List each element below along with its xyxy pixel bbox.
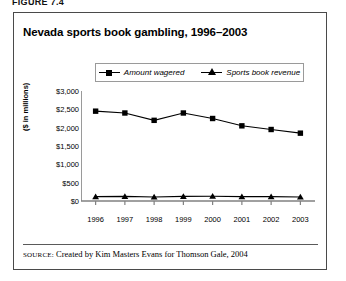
chart-title: Nevada sports book gambling, 1996–2003 (23, 26, 247, 38)
x-tick-label: 2002 (263, 215, 280, 224)
source-divider (23, 244, 318, 245)
y-tick-label: $2,000 (56, 123, 79, 132)
legend-item-amount-wagered: Amount wagered (99, 68, 184, 77)
y-tick-label: $500 (62, 178, 79, 187)
square-marker-icon (99, 72, 120, 73)
figure-number: FIGURE 7.4 (12, 0, 64, 7)
x-tick-label: 2001 (234, 215, 251, 224)
x-tick-label: 1998 (146, 215, 163, 224)
source-label: SOURCE: (23, 251, 54, 259)
legend-label-amount-wagered: Amount wagered (124, 68, 184, 77)
x-tick-label: 1999 (175, 215, 192, 224)
x-tick-label: 2003 (292, 215, 309, 224)
figure-container: FIGURE 7.4 Nevada sports book gambling, … (0, 0, 346, 281)
y-tick-label: $1,500 (56, 142, 79, 151)
y-tick-label: $0 (71, 197, 79, 206)
y-axis-tick-labels: $0$500$1,000$1,500$2,000$2,500$3,000 (37, 91, 79, 211)
plot-area: ($ in millions) $0$500$1,000$1,500$2,000… (23, 91, 319, 239)
y-axis-label: ($ in millions) (21, 83, 30, 131)
y-tick-label: $2,500 (56, 105, 79, 114)
chart-svg (81, 91, 315, 213)
source-text: Created by Kim Masters Evans for Thomson… (56, 249, 248, 259)
legend-item-sports-book-revenue: Sports book revenue (201, 68, 300, 77)
legend-label-sports-book-revenue: Sports book revenue (226, 68, 300, 77)
figure-frame: Nevada sports book gambling, 1996–2003 A… (13, 12, 327, 270)
triangle-marker-icon (201, 72, 222, 73)
x-axis-tick-labels: 19961997199819992000200120022003 (81, 211, 315, 231)
chart-legend: Amount wagered Sports book revenue (95, 63, 304, 82)
x-tick-label: 1996 (87, 215, 104, 224)
x-tick-label: 1997 (117, 215, 134, 224)
y-tick-label: $1,000 (56, 160, 79, 169)
y-tick-label: $3,000 (56, 87, 79, 96)
source-note: SOURCE: Created by Kim Masters Evans for… (23, 249, 248, 259)
x-tick-label: 2000 (204, 215, 221, 224)
